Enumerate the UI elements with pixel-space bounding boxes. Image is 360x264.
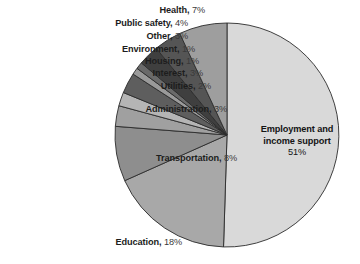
slice-label-housing: Housing, 1% [145, 56, 199, 66]
slice-label-health-percent: 7% [192, 5, 205, 15]
pie-chart-figure: Employment and income support 51% Health… [0, 0, 360, 264]
slice-label-environment-category: Environment, [122, 44, 180, 54]
slice-label-housing-category: Housing, [145, 56, 184, 66]
slice-label-health-category: Health, [160, 5, 190, 15]
slice-label-administration-percent: 3% [214, 104, 227, 114]
slice-label-utilities-category: Utilities, [161, 81, 196, 91]
slice-label-environment-percent: 1% [182, 44, 195, 54]
slice-label-public-safety: Public safety, 4% [115, 18, 188, 28]
slice-label-transportation-percent: 8% [224, 153, 237, 163]
slice-label-administration-category: Administration, [146, 104, 212, 114]
slice-label-line2: income support [241, 136, 353, 148]
slice-label-percent: 51% [241, 147, 353, 159]
slice-label-administration: Administration, 3% [146, 104, 227, 114]
slice-label-interest-percent: 3% [190, 68, 203, 78]
slice-label-environment: Environment, 1% [122, 44, 195, 54]
slice-label-education: Education, 18% [115, 237, 182, 247]
slice-label-other-category: Other, [147, 31, 173, 41]
slice-label-housing-percent: 1% [186, 56, 199, 66]
slice-label-utilities: Utilities, 2% [161, 81, 211, 91]
slice-label-education-percent: 18% [164, 237, 182, 247]
slice-label-public-safety-category: Public safety, [115, 18, 172, 28]
slice-label-health: Health, 7% [160, 5, 205, 15]
slice-label-other: Other, 3% [147, 31, 189, 41]
slice-label-transportation-category: Transportation, [156, 153, 221, 163]
slice-label-transportation: Transportation, 8% [156, 153, 237, 163]
slice-label-employment-and-income-support: Employment and income support 51% [241, 124, 353, 159]
slice-label-interest-category: Interest, [153, 68, 188, 78]
slice-label-line1: Employment and [241, 124, 353, 136]
slice-label-public-safety-percent: 4% [175, 18, 188, 28]
slice-label-utilities-percent: 2% [198, 81, 211, 91]
slice-label-other-percent: 3% [175, 31, 188, 41]
slice-label-education-category: Education, [115, 237, 161, 247]
slice-label-interest: Interest, 3% [153, 68, 203, 78]
